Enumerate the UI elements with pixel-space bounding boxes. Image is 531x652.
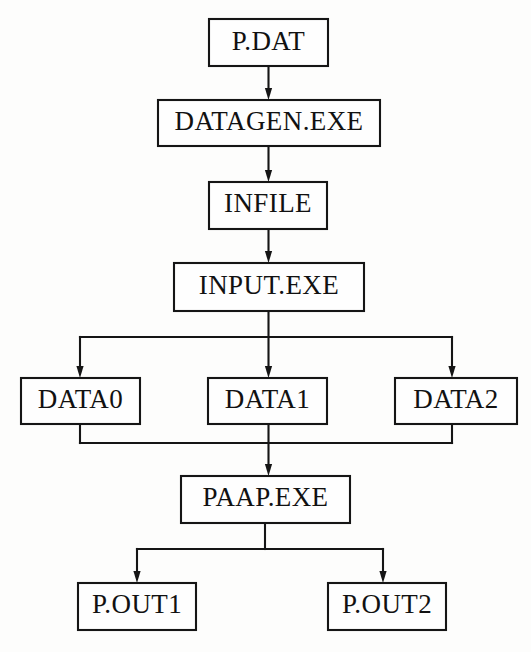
node-infile[interactable]: INFILE: [209, 182, 327, 229]
node-p-out2[interactable]: P.OUT2: [328, 583, 446, 630]
arrow-head: [448, 366, 455, 378]
node-label-input-exe: INPUT.EXE: [199, 270, 339, 300]
node-label-data2: DATA2: [413, 384, 498, 414]
arrow-head: [265, 366, 272, 378]
arrow-head: [265, 464, 272, 476]
edge-paap-fanout-bus: [133, 523, 386, 583]
node-label-p-out1: P.OUT1: [92, 589, 182, 619]
node-p-dat[interactable]: P.DAT: [209, 19, 328, 66]
node-label-paap-exe: PAAP.EXE: [203, 482, 329, 512]
arrow-head: [379, 571, 386, 583]
node-label-datagen-exe: DATAGEN.EXE: [175, 106, 364, 136]
arrow-head: [265, 88, 272, 100]
node-paap-exe[interactable]: PAAP.EXE: [181, 476, 350, 523]
arrow-head: [133, 571, 140, 583]
edge-infile-to-input: [265, 229, 272, 263]
edge-datagen-to-infile: [265, 146, 272, 182]
node-label-data0: DATA0: [38, 384, 123, 414]
node-data1[interactable]: DATA1: [208, 378, 327, 424]
node-label-data1: DATA1: [225, 384, 310, 414]
edge-p-dat-to-datagen: [265, 66, 272, 100]
arrow-head: [265, 170, 272, 182]
node-label-infile: INFILE: [224, 188, 312, 218]
node-data0[interactable]: DATA0: [21, 378, 140, 424]
edge-data-fanin-bus: [80, 424, 452, 476]
arrow-head: [76, 366, 83, 378]
node-data2[interactable]: DATA2: [395, 378, 517, 424]
node-datagen-exe[interactable]: DATAGEN.EXE: [158, 100, 380, 146]
node-input-exe[interactable]: INPUT.EXE: [174, 263, 364, 311]
flowchart-canvas: P.DAT DATAGEN.EXE INFILE INPUT.EXE DATA0…: [0, 0, 531, 652]
program-data-flow-diagram: P.DAT DATAGEN.EXE INFILE INPUT.EXE DATA0…: [0, 0, 531, 652]
node-label-p-out2: P.OUT2: [342, 589, 432, 619]
edge-input-fanout-bus: [76, 311, 455, 378]
arrow-head: [265, 251, 272, 263]
node-p-out1[interactable]: P.OUT1: [78, 583, 196, 630]
node-label-p-dat: P.DAT: [232, 26, 305, 56]
